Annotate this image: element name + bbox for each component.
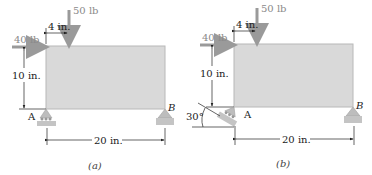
panel-a-drawing bbox=[0, 0, 186, 175]
dim-20in-label: 20 in. bbox=[94, 136, 123, 146]
dim-10in-label: 10 in. bbox=[12, 71, 41, 81]
panel-b-caption: (b) bbox=[276, 158, 290, 169]
support-a-label: A bbox=[28, 112, 35, 122]
load-50lb-label: 50 lb bbox=[73, 6, 99, 16]
support-a-label: A bbox=[244, 110, 251, 120]
load-50lb-label: 50 lb bbox=[261, 4, 287, 14]
dim-10in-label: 10 in. bbox=[200, 69, 229, 79]
dim-4in-label: 4 in. bbox=[48, 22, 70, 32]
support-a bbox=[37, 109, 56, 126]
load-40lb-label: 40 lb bbox=[202, 33, 228, 43]
support-b-label: B bbox=[356, 101, 363, 111]
support-b-label: B bbox=[168, 103, 175, 113]
plate bbox=[46, 46, 165, 109]
angle-30-label: 30° bbox=[186, 112, 204, 122]
plate bbox=[234, 44, 353, 107]
load-40lb-label: 40 lb bbox=[14, 35, 40, 45]
dim-20in-label: 20 in. bbox=[282, 135, 311, 145]
dim-4in-label: 4 in. bbox=[236, 20, 258, 30]
panel-a-caption: (a) bbox=[88, 160, 102, 171]
panel-a: 50 lb 4 in. 40 lb 10 in. A B 20 in. (a) bbox=[0, 0, 186, 175]
panel-b-drawing bbox=[186, 0, 372, 175]
panel-b: 50 lb 4 in. 40 lb 10 in. 30° A B 20 in. … bbox=[186, 0, 372, 175]
